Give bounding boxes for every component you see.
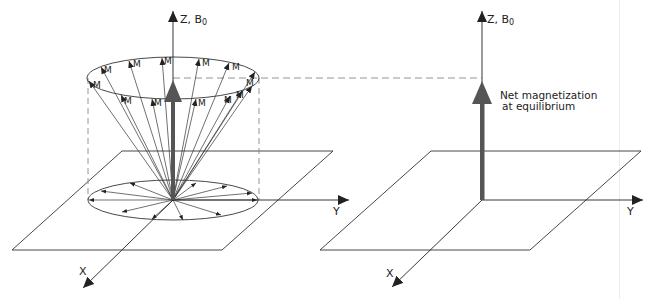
z-axis-label-left: Z, B0 [180,14,207,27]
y-axis-label-right: Y [627,206,634,217]
svg-text:M: M [198,98,206,108]
magnetization-diagram: M M M M M M M M M M M M [0,0,653,299]
net-magnetization-annotation: Net magnetization at equilibrium [500,90,597,112]
svg-text:M: M [236,90,244,100]
svg-text:M: M [202,58,210,68]
x-axis-label-left: X [79,266,87,277]
svg-text:M: M [246,78,254,88]
z-label-subscript-left: 0 [202,18,207,27]
svg-text:M: M [104,65,112,75]
z-axis-label-right: Z, B0 [487,14,514,27]
svg-text:M: M [232,62,240,72]
annotation-line-2: at equilibrium [500,101,597,112]
left-panel: M M M M M M M M M M M M [12,11,482,288]
svg-text:M: M [154,98,162,108]
right-panel [320,11,643,287]
svg-text:M: M [224,95,232,105]
svg-text:M: M [164,56,172,66]
z-label-text-left: Z, B [180,13,202,26]
net-vector-shaft-left [171,98,175,200]
net-vector-shaft-right [480,100,485,200]
x-axis-label-right: X [386,268,394,279]
x-axis-left[interactable] [83,200,173,288]
z-label-subscript-right: 0 [509,18,514,27]
svg-text:M: M [124,96,132,106]
svg-text:M: M [93,80,101,90]
net-vector-head-left [164,80,182,102]
z-label-text-right: Z, B [487,13,509,26]
y-axis-label-left: Y [333,206,340,217]
svg-text:M: M [133,59,141,69]
x-axis-right[interactable] [392,200,482,287]
net-vector-head-right [472,81,492,104]
